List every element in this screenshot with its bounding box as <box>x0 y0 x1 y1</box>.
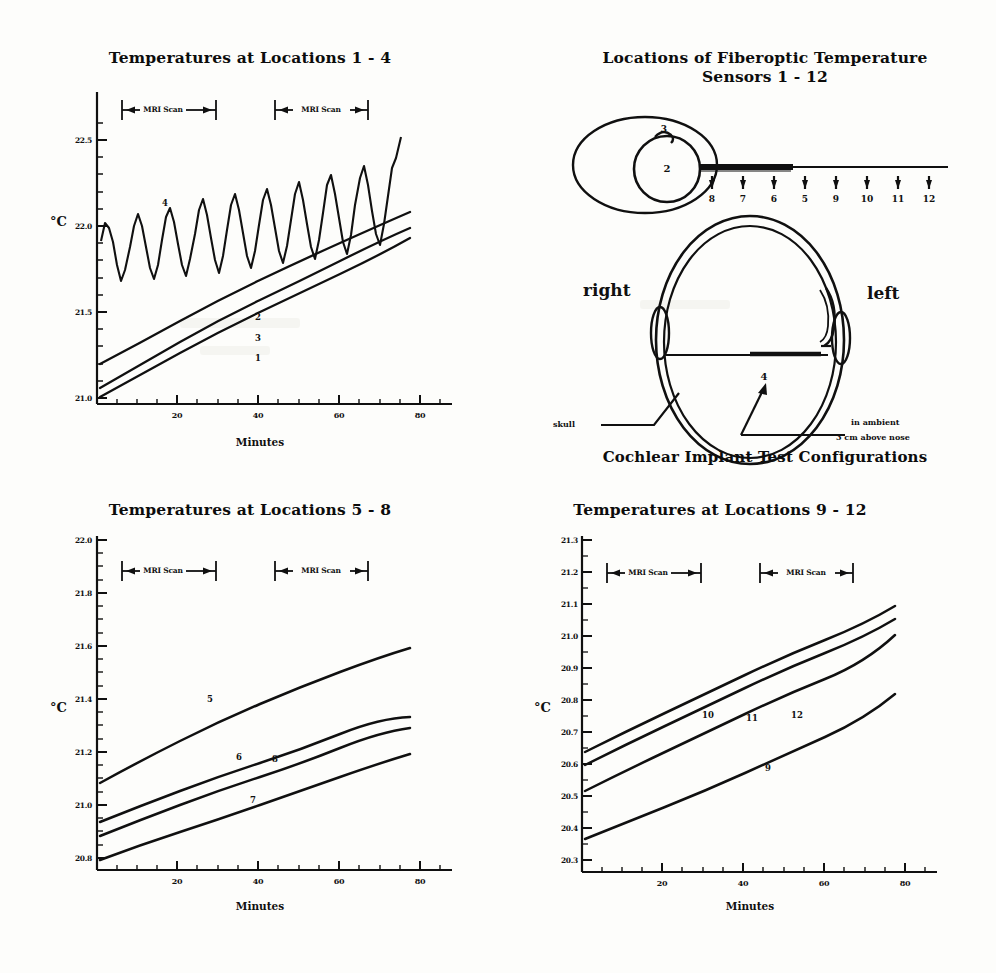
series-line-7 <box>100 754 410 860</box>
chart-locations-5-8: Temperatures at Locations 5 - 8 °C Minut… <box>40 500 460 930</box>
sensor-number: 6 <box>771 194 777 204</box>
ambient-callout-line1: in ambient <box>851 417 900 427</box>
series-line-10 <box>585 606 895 752</box>
chart-locations-1-4: Temperatures at Locations 1 - 4 °C Minut… <box>40 48 460 468</box>
figure-page: Temperatures at Locations 1 - 4 °C Minut… <box>0 0 996 973</box>
sensor-number: 9 <box>833 194 839 204</box>
ambient-callout-line2: 3 cm above nose <box>836 432 910 442</box>
head-right-label: right <box>583 280 631 300</box>
series-line-11 <box>585 619 895 765</box>
head-inner-outline <box>664 226 836 458</box>
head-implant-coil-inner <box>820 290 828 342</box>
series-line-1 <box>100 238 410 397</box>
diagram-sensor-locations: Locations of Fiberoptic Temperature Sens… <box>545 48 985 478</box>
skull-callout-label: skull <box>553 419 575 429</box>
sensor-number: 8 <box>709 194 715 204</box>
series-line-8 <box>100 728 410 836</box>
sensor-number: 7 <box>740 194 746 204</box>
sensor-4-arrow-line <box>741 390 763 435</box>
implant-sensor-3-label: 3 <box>661 124 667 134</box>
implant-sensor-2-label: 2 <box>664 163 671 174</box>
sensor-number: 10 <box>861 194 874 204</box>
chart-locations-9-12: Temperatures at Locations 9 - 12 °C Minu… <box>500 500 940 930</box>
sensor-number: 12 <box>923 194 936 204</box>
sensor-4-arrowhead <box>758 383 767 395</box>
series-line-5 <box>100 648 410 783</box>
head-outer-outline <box>656 216 844 464</box>
sensor-number: 11 <box>892 194 905 204</box>
head-sensor-4-label: 4 <box>761 371 768 382</box>
series-line-2 <box>100 212 410 364</box>
implant-body-outline <box>573 117 717 213</box>
sensor-number: 5 <box>802 194 808 204</box>
series-line-12 <box>585 635 895 791</box>
chart-plot-area <box>500 500 940 930</box>
diagram-title-line1: Locations of Fiberoptic Temperature <box>545 48 985 67</box>
diagram-title-line2: Sensors 1 - 12 <box>545 67 985 86</box>
chart-plot-area <box>40 500 460 930</box>
chart-plot-area <box>40 48 460 468</box>
ear-right <box>651 307 669 359</box>
diagram-caption: Cochlear Implant Test Configurations <box>545 448 985 467</box>
head-left-label: left <box>867 283 899 303</box>
series-line-4 <box>101 137 401 281</box>
